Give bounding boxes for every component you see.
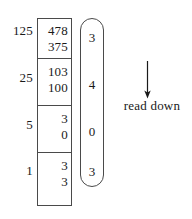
division-work-column: 478 375 103 100 3 0 3 3 (37, 18, 72, 206)
dividend-value: 478 (48, 24, 68, 37)
read-down-label: read down (112, 99, 192, 113)
dividend-value: 3 (61, 112, 68, 125)
place-value-label: 5 (0, 118, 33, 131)
place-value-label: 25 (0, 71, 33, 84)
place-value-column: 125 25 5 1 (0, 18, 33, 206)
result-digit: 3 (81, 165, 103, 178)
result-digit: 0 (81, 125, 103, 138)
subtrahend-value: 375 (48, 40, 68, 53)
place-value-label: 125 (0, 24, 33, 37)
division-row: 3 3 (38, 153, 71, 205)
subtrahend-value: 100 (48, 81, 68, 94)
division-row: 3 0 (38, 106, 71, 153)
result-digit: 3 (81, 31, 103, 44)
dividend-value: 103 (48, 65, 68, 78)
result-digits-capsule: 3 4 0 3 (80, 18, 104, 187)
place-value-label: 1 (0, 164, 33, 177)
result-digit: 4 (81, 78, 103, 91)
division-row: 478 375 (38, 19, 71, 59)
division-row: 103 100 (38, 59, 71, 106)
base-conversion-diagram: 125 25 5 1 478 375 103 100 3 0 3 3 3 4 0… (0, 0, 192, 219)
subtrahend-value: 3 (61, 175, 68, 188)
subtrahend-value: 0 (61, 128, 68, 141)
down-arrow-icon (128, 60, 168, 102)
dividend-value: 3 (61, 159, 68, 172)
